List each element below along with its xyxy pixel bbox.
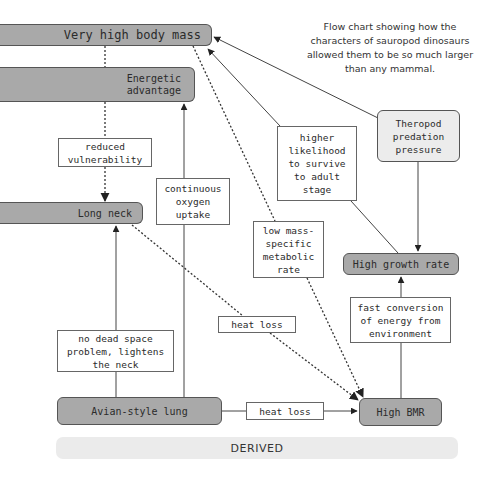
label-continuous-oxygen-uptake: continuous oxygen uptake xyxy=(156,178,230,225)
node-very-high-body-mass: Very high body mass xyxy=(0,24,212,46)
edge-longneck-to-bmr-2 xyxy=(270,333,358,400)
label-reduced-vulnerability: reduced vulnerability xyxy=(58,138,152,167)
label-no-dead-space-text: no dead space problem, lightens the neck xyxy=(60,332,172,371)
node-high-growth-rate: High growth rate xyxy=(343,253,459,275)
node-avian-style-lung-label: Avian-style lung xyxy=(91,405,187,418)
node-energetic-advantage: Energetic advantage xyxy=(0,67,195,102)
label-higher-likelihood: higher likelihood to survive to adult st… xyxy=(277,126,357,201)
node-high-bmr: High BMR xyxy=(359,398,442,426)
label-continuous-oxygen-text: continuous oxygen uptake xyxy=(161,182,225,221)
derived-bar: DERIVED xyxy=(56,437,458,459)
derived-label: DERIVED xyxy=(231,442,284,455)
label-low-metabolic-text: low mass-specific metabolic rate xyxy=(258,224,320,276)
label-fast-conversion-text: fast conversion of energy from environme… xyxy=(353,301,449,340)
node-long-neck-label: Long neck xyxy=(78,207,132,220)
label-no-dead-space: no dead space problem, lightens the neck xyxy=(57,330,174,372)
node-energetic-advantage-label: Energetic advantage xyxy=(121,73,181,97)
edge-growth-to-bodymass xyxy=(351,201,398,253)
node-high-growth-rate-label: High growth rate xyxy=(353,258,449,271)
edge-longneck-to-bmr xyxy=(132,225,243,316)
node-very-high-body-mass-label: Very high body mass xyxy=(64,29,201,42)
node-theropod-predation-label: Theropod predation pressure xyxy=(386,117,452,156)
node-long-neck: Long neck xyxy=(0,202,143,224)
label-heat-loss-upper: heat loss xyxy=(218,316,296,333)
node-high-bmr-label: High BMR xyxy=(376,406,424,419)
label-heat-loss-lower-text: heat loss xyxy=(259,405,310,418)
label-fast-conversion: fast conversion of energy from environme… xyxy=(350,297,451,343)
label-low-mass-specific-metabolic-rate: low mass-specific metabolic rate xyxy=(253,221,324,278)
chart-caption: Flow chart showing how the characters of… xyxy=(298,20,482,76)
label-reduced-vulnerability-text: reduced vulnerability xyxy=(63,140,147,166)
node-theropod-predation: Theropod predation pressure xyxy=(377,110,460,162)
edge-growth-to-bodymass-2 xyxy=(208,49,280,126)
node-avian-style-lung: Avian-style lung xyxy=(57,397,222,425)
label-higher-likelihood-text: higher likelihood to survive to adult st… xyxy=(283,131,351,196)
label-heat-loss-lower: heat loss xyxy=(246,402,324,420)
label-heat-loss-upper-text: heat loss xyxy=(231,318,282,331)
